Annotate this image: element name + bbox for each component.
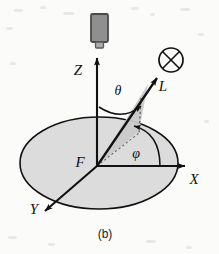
x-axis-label: X (188, 171, 199, 187)
ray-label-l: L (158, 78, 167, 94)
detector-body (91, 14, 108, 42)
z-axis-label: Z (74, 62, 83, 78)
origin-label-f: F (74, 154, 85, 170)
phi-label: φ (132, 146, 140, 161)
y-axis-label: Y (30, 201, 40, 217)
detector-lens-nub (96, 42, 104, 48)
theta-label: θ (115, 83, 122, 98)
spherical-coordinate-diagram: Z X Y F L θ φ (b) (0, 0, 219, 254)
figure-caption: (b) (98, 227, 113, 241)
figure-container: Z X Y F L θ φ (b) (0, 0, 219, 254)
